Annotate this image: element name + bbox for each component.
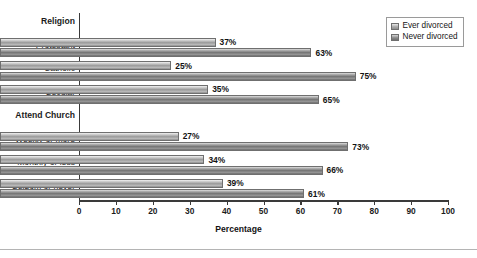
x-tick-label: 0 bbox=[77, 207, 82, 215]
bar-ever-divorced bbox=[0, 38, 216, 47]
x-tick-mark bbox=[153, 200, 154, 205]
bar-never-divorced bbox=[0, 72, 356, 81]
legend-label-never-divorced: Never divorced bbox=[403, 33, 458, 41]
chart-figure: ReligionProtestantCatholicSecularAttend … bbox=[0, 0, 477, 258]
bar-value-label: 61% bbox=[308, 190, 325, 198]
x-tick-label: 30 bbox=[185, 207, 194, 215]
footer-rule bbox=[0, 249, 477, 250]
group-heading: Attend Church bbox=[0, 111, 75, 120]
bar-value-label: 39% bbox=[227, 179, 244, 187]
x-tick-label: 90 bbox=[406, 207, 415, 215]
bar-never-divorced bbox=[0, 189, 304, 198]
x-tick-label: 60 bbox=[296, 207, 305, 215]
group-heading: Religion bbox=[0, 17, 75, 26]
bar-ever-divorced bbox=[0, 132, 179, 141]
bar-value-label: 35% bbox=[212, 85, 229, 93]
legend-swatch-ever-divorced bbox=[391, 23, 399, 31]
bar-value-label: 66% bbox=[327, 166, 344, 174]
legend-item-ever-divorced[interactable]: Ever divorced bbox=[391, 21, 458, 32]
x-tick-mark bbox=[79, 200, 80, 205]
bar-never-divorced bbox=[0, 48, 311, 57]
bar-value-label: 65% bbox=[323, 96, 340, 104]
bar-ever-divorced bbox=[0, 85, 208, 94]
bar-value-label: 73% bbox=[352, 143, 369, 151]
x-tick-mark bbox=[300, 200, 301, 205]
bar-value-label: 37% bbox=[220, 38, 237, 46]
bar-ever-divorced bbox=[0, 179, 223, 188]
legend-swatch-never-divorced bbox=[391, 34, 399, 42]
bar-ever-divorced bbox=[0, 61, 171, 70]
bar-never-divorced bbox=[0, 142, 348, 151]
x-tick-label: 40 bbox=[222, 207, 231, 215]
bar-ever-divorced bbox=[0, 155, 204, 164]
x-axis-title: Percentage bbox=[0, 224, 477, 234]
bar-value-label: 27% bbox=[183, 132, 200, 140]
x-tick-mark bbox=[448, 200, 449, 205]
x-tick-mark bbox=[374, 200, 375, 205]
x-tick-label: 10 bbox=[111, 207, 120, 215]
x-tick-mark bbox=[411, 200, 412, 205]
x-tick-mark bbox=[190, 200, 191, 205]
x-tick-label: 50 bbox=[259, 207, 268, 215]
legend-label-ever-divorced: Ever divorced bbox=[403, 22, 453, 30]
x-tick-mark bbox=[227, 200, 228, 205]
chart-legend: Ever divorced Never divorced bbox=[386, 17, 464, 47]
x-tick-mark bbox=[116, 200, 117, 205]
x-tick-label: 70 bbox=[333, 207, 342, 215]
bar-never-divorced bbox=[0, 166, 323, 175]
bar-value-label: 63% bbox=[315, 49, 332, 57]
bar-value-label: 75% bbox=[360, 72, 377, 80]
x-tick-mark bbox=[337, 200, 338, 205]
legend-item-never-divorced[interactable]: Never divorced bbox=[391, 32, 458, 43]
bar-never-divorced bbox=[0, 95, 319, 104]
x-tick-mark bbox=[264, 200, 265, 205]
x-tick-label: 100 bbox=[441, 207, 455, 215]
x-tick-label: 20 bbox=[148, 207, 157, 215]
x-tick-label: 80 bbox=[370, 207, 379, 215]
bar-value-label: 25% bbox=[175, 62, 192, 70]
bar-value-label: 34% bbox=[208, 156, 225, 164]
